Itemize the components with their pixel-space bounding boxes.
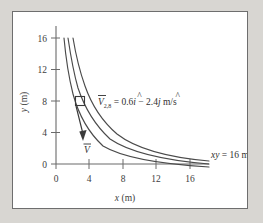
velocity-equation-eq: = 0.6 (111, 97, 133, 107)
y-axis-title: y(m) (19, 92, 30, 113)
x-axis-title-var: x (114, 193, 120, 203)
j-hat-accent: ^ (176, 91, 181, 101)
y-axis-title-var: y (19, 107, 29, 113)
y-tick-label-12: 12 (38, 65, 48, 75)
x-tick-label-4: 4 (87, 174, 92, 184)
x-tick-label-0: 0 (54, 174, 59, 184)
x-tick-label-12: 12 (151, 174, 161, 184)
y-tick-label-8: 8 (42, 97, 47, 107)
x-axis-title: x(m) (114, 193, 135, 204)
y-axis-title-unit: (m) (19, 92, 30, 106)
streamline-plot: 16 12 8 4 0 0 4 8 12 16 (13, 12, 247, 208)
y-tick-label-16: 16 (38, 34, 48, 44)
x-tick-group: 0 4 8 12 16 (54, 159, 195, 184)
x-axis-title-unit: (m) (122, 193, 136, 204)
y-tick-label-4: 4 (42, 128, 47, 138)
velocity-vector-head (79, 130, 86, 141)
velocity-vector: V (76, 106, 91, 155)
x-tick-label-16: 16 (185, 174, 195, 184)
y-tick-group: 16 12 8 4 0 (38, 34, 61, 170)
streamline-label-eq: = 16 m (219, 150, 247, 160)
i-hat-accent: ^ (137, 91, 142, 101)
velocity-equation-annotation: V2,8 = 0.6i − 2.4j m/s ^ ^ (98, 91, 181, 109)
figure-frame: 16 12 8 4 0 0 4 8 12 16 (12, 11, 248, 209)
x-tick-label-8: 8 (121, 174, 126, 184)
velocity-equation-units: m/s (161, 97, 177, 107)
velocity-equation-sub: 2,8 (104, 103, 112, 109)
vector-symbol-label: V (84, 145, 91, 155)
y-tick-label-0: 0 (42, 160, 47, 170)
streamline-label: xy = 16 m2 (210, 149, 247, 161)
velocity-vector-shaft (76, 106, 83, 134)
